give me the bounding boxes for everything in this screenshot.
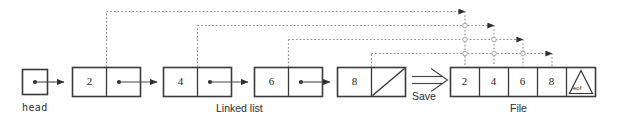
list-node-2-value: 4 <box>163 76 198 87</box>
linked-list-to-file-diagram: 2 4 6 8 2 4 6 8 eof head Linked list Sav… <box>0 0 626 126</box>
file-cell-3-value: 6 <box>508 76 537 87</box>
file-cell-4-value: 8 <box>537 76 566 87</box>
save-label: Save <box>412 91 436 102</box>
list-node-4-value: 8 <box>337 76 372 87</box>
file-cell-2-value: 4 <box>479 76 508 87</box>
mapping-arrow-node4 <box>198 26 495 68</box>
save-double-arrow-icon <box>412 69 448 92</box>
diagram-canvas <box>0 0 626 126</box>
linked-list-caption: Linked list <box>216 103 263 114</box>
head-pointer-box <box>23 70 65 95</box>
mapping-arrow-group <box>107 12 553 68</box>
file-cell-1-value: 2 <box>450 76 479 87</box>
mapping-arrow-node8 <box>372 54 553 68</box>
crossing-junctions <box>463 23 526 56</box>
list-node-1-value: 2 <box>72 76 107 87</box>
eof-label: eof <box>573 85 581 91</box>
file-caption: File <box>510 103 527 114</box>
list-node-3-value: 6 <box>254 76 289 87</box>
head-label: head <box>22 103 48 113</box>
